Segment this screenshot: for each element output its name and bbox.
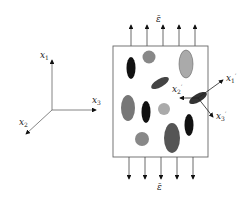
- inclusion-gray-circle-2: [135, 132, 149, 146]
- strain-bottom-label: ε̄: [157, 182, 162, 192]
- inclusion-mid-ellipse: [121, 95, 135, 121]
- x1p-label: x1′: [226, 72, 237, 84]
- strain-top-label: ε̄: [156, 14, 161, 24]
- inclusion-black: [127, 57, 136, 79]
- global-axes: x1 x3 x2: [19, 50, 101, 134]
- x3p-label: x3′: [216, 110, 227, 122]
- inclusion-dark-ellipse: [164, 123, 180, 153]
- x3-label: x3: [92, 95, 101, 106]
- composite-rve-diagram: x1 x3 x2 ε̄ x1′ x2′ x3′: [0, 0, 251, 200]
- x2-axis-arrow: [26, 110, 52, 134]
- inclusion-light-circle: [158, 103, 170, 115]
- bottom-strain-arrows: [129, 157, 193, 179]
- inclusion-light-ellipse: [179, 50, 193, 78]
- inclusion-black-3: [185, 114, 194, 136]
- top-strain-arrows: [131, 25, 195, 46]
- x1-label: x1: [40, 50, 49, 61]
- x2-label: x2: [19, 117, 28, 128]
- inclusion-black-2: [142, 101, 151, 123]
- inclusion-gray-circle: [143, 51, 156, 64]
